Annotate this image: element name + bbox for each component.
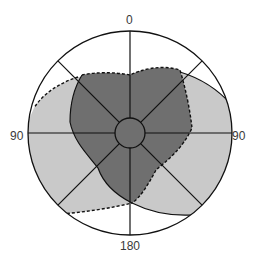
axis-label-bottom: 180 xyxy=(120,240,140,252)
center-circle xyxy=(115,118,145,148)
axis-label-top: 0 xyxy=(126,14,133,26)
axis-label-left: 90 xyxy=(10,130,23,142)
polar-visual-field-chart xyxy=(0,0,260,264)
axis-label-right: 90 xyxy=(232,130,245,142)
